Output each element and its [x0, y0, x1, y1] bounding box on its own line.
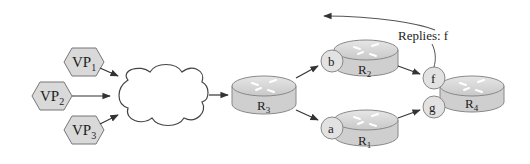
arrow-r1-g: [398, 110, 420, 118]
arrow-r3-a: [296, 110, 318, 120]
replies-leader-line: [432, 44, 435, 67]
svg-text:b: b: [328, 54, 335, 69]
router-r3: R3: [232, 76, 296, 115]
replies-label: Replies: f: [398, 28, 449, 43]
arrow-r3-b: [296, 66, 318, 78]
interface-f: f: [423, 67, 445, 89]
interface-g: g: [423, 96, 445, 118]
internet-cloud: [119, 65, 208, 126]
interface-b: b: [321, 50, 343, 72]
router-r4: R4: [440, 76, 504, 113]
interface-a: a: [321, 117, 343, 139]
vp3-node: VP3: [64, 116, 104, 144]
router-r1: R1: [334, 110, 398, 150]
network-diagram: VP1 VP2 VP3 R3 R2 b R1: [0, 0, 530, 164]
svg-text:g: g: [429, 100, 436, 115]
svg-text:a: a: [328, 121, 334, 136]
arrow-vp1-cloud: [100, 68, 118, 76]
svg-text:f: f: [431, 71, 436, 86]
arrow-r2-f: [398, 66, 420, 74]
arrow-vp3-cloud: [100, 115, 118, 124]
vp2-node: VP2: [32, 82, 72, 110]
router-r2: R2: [334, 40, 398, 79]
vp1-node: VP1: [64, 48, 104, 76]
